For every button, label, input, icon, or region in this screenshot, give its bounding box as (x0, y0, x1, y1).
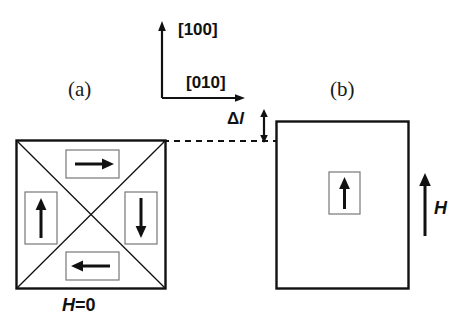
domain-box-left (25, 192, 57, 244)
delta-quantity: l (239, 109, 244, 128)
panel-a-caption-rest: =0 (75, 295, 96, 315)
panel-label-b: (b) (330, 79, 355, 100)
delta-l-label: Δl (227, 110, 244, 127)
panel-b-diagram (270, 115, 418, 296)
applied-field-symbol: H (434, 198, 447, 218)
figure-canvas: [100] [010] (a) (b) (0, 0, 462, 325)
domain-box-right (125, 192, 157, 244)
axis-label-horizontal: [010] (186, 74, 226, 91)
domain-box-top (66, 150, 119, 178)
domain-box-bottom (66, 252, 119, 280)
axis-label-vertical: [100] (178, 21, 218, 38)
axis-horizontal-arrowhead (235, 94, 245, 102)
applied-field-label: H (434, 199, 447, 217)
panel-a-diagram (10, 134, 175, 296)
delta-symbol: Δ (227, 109, 239, 128)
axis-vertical-arrowhead (158, 21, 166, 31)
panel-a-caption-symbol: H (62, 295, 75, 315)
double-arrow-head-up (260, 109, 268, 117)
domain-box-center (329, 172, 360, 214)
panel-a-caption: H=0 (62, 296, 96, 314)
applied-field-arrowhead (419, 173, 431, 186)
double-arrow-head-down (260, 135, 268, 143)
panel-label-a: (a) (68, 79, 91, 100)
